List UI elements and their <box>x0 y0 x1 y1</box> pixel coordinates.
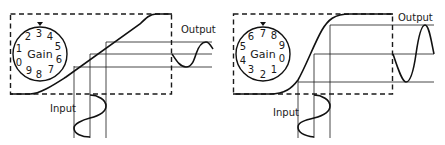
dial-number: 4 <box>240 55 246 66</box>
dial-number: 9 <box>279 40 285 51</box>
dial-number: 2 <box>260 69 266 80</box>
input-label: Input <box>273 107 299 118</box>
dial-number: 8 <box>36 69 42 80</box>
dial-number: 1 <box>16 43 22 54</box>
dial-number: 1 <box>271 64 277 75</box>
panel-high-gain: Gain 7 8 9 0 1 2 3 4 5 6 Output Input <box>233 12 434 138</box>
dial-pointer-icon <box>260 22 266 26</box>
dial-pointer-icon <box>37 22 43 26</box>
dial-number: 8 <box>271 30 277 41</box>
gain-dial[interactable]: Gain 7 8 9 0 1 2 3 4 5 6 <box>236 22 290 81</box>
output-label: Output <box>398 12 433 23</box>
dial-number: 4 <box>47 31 53 42</box>
output-waveform <box>393 25 434 82</box>
dial-number: 7 <box>260 28 266 39</box>
gain-dial[interactable]: Gain 3 4 5 6 7 8 9 0 1 2 <box>13 22 67 81</box>
dial-label: Gain <box>27 48 52 61</box>
dial-number: 0 <box>279 53 285 64</box>
dial-number: 0 <box>16 57 22 68</box>
dial-number: 7 <box>48 64 54 75</box>
dial-number: 6 <box>248 31 254 42</box>
input-label: Input <box>50 103 76 114</box>
dial-number: 2 <box>25 31 31 42</box>
gain-diagram: Gain 3 4 5 6 7 8 9 0 1 2 Output Input <box>0 0 445 145</box>
dial-number: 5 <box>240 41 246 52</box>
dial-label: Gain <box>250 48 275 61</box>
dial-number: 5 <box>55 41 61 52</box>
dial-number: 3 <box>36 28 42 39</box>
output-waveform <box>172 42 213 67</box>
dial-number: 9 <box>26 65 32 76</box>
dial-number: 6 <box>56 54 62 65</box>
output-label: Output <box>181 24 216 35</box>
dial-number: 3 <box>248 64 254 75</box>
panel-low-gain: Gain 3 4 5 6 7 8 9 0 1 2 Output Input <box>10 14 216 138</box>
